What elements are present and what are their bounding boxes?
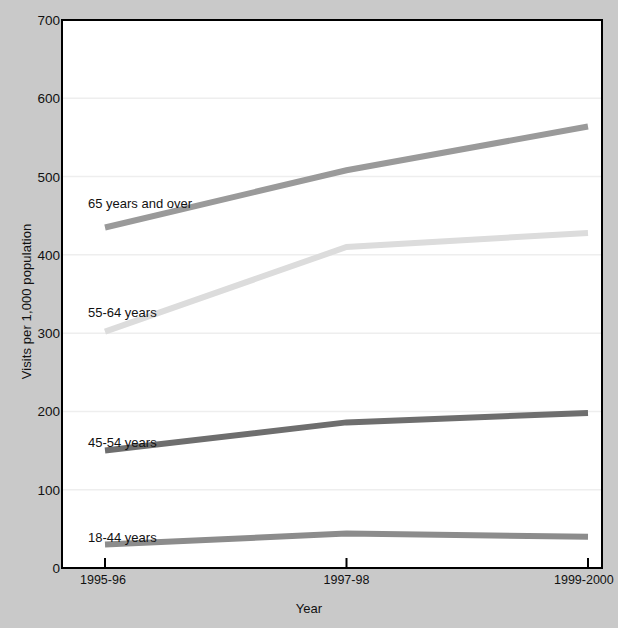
chart-container: 7006005004003002001000 1995-961997-98199… — [0, 0, 618, 628]
y-axis-tick-label: 700 — [14, 13, 60, 28]
x-axis-tick-label: 1999-2000 — [554, 573, 614, 587]
y-axis-title: Visits per 1,000 population — [19, 202, 34, 402]
plot-background-rect — [62, 20, 602, 568]
plot-area-background — [62, 20, 602, 568]
y-axis-tick-label: 200 — [14, 404, 60, 419]
series-label-0: 65 years and over — [88, 196, 192, 211]
y-axis-tick-label: 0 — [14, 561, 60, 576]
x-axis-title: Year — [0, 601, 618, 616]
x-axis-tick-label: 1995-96 — [80, 573, 126, 587]
series-label-2: 45-54 years — [88, 435, 157, 450]
y-axis-tick-label: 500 — [14, 169, 60, 184]
y-axis-tick-label: 100 — [14, 482, 60, 497]
series-label-1: 55-64 years — [88, 305, 157, 320]
series-label-3: 18-44 years — [88, 530, 157, 545]
y-axis-tick-label: 600 — [14, 91, 60, 106]
x-axis-tick-label: 1997-98 — [324, 573, 370, 587]
